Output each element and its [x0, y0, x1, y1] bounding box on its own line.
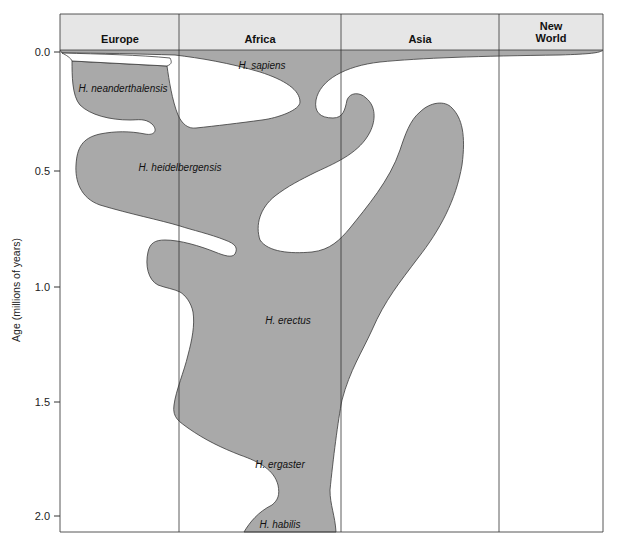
region-header-europe: Europe — [101, 33, 139, 45]
y-axis: 0.0 0.5 1.0 1.5 2.0 Age (millions of yea… — [10, 46, 60, 522]
label-h-habilis: H. habilis — [259, 519, 300, 530]
hominin-range-diagram: Europe Africa Asia New World 0.0 0.5 1.0… — [0, 0, 618, 548]
y-tick-0: 0.0 — [35, 46, 50, 58]
label-h-erectus: H. erectus — [265, 315, 311, 326]
y-tick-1: 1.0 — [35, 281, 50, 293]
species-range-shape — [60, 50, 603, 532]
region-header-africa: Africa — [244, 33, 276, 45]
y-tick-2: 2.0 — [35, 510, 50, 522]
y-tick-0-5: 0.5 — [35, 165, 50, 177]
label-h-sapiens: H. sapiens — [238, 60, 285, 71]
region-header-asia: Asia — [408, 33, 432, 45]
label-h-ergaster: H. ergaster — [255, 459, 305, 470]
y-axis-label: Age (millions of years) — [10, 238, 22, 342]
region-header-new-world-line1: New — [540, 20, 563, 32]
region-header-band — [60, 14, 603, 52]
region-header-new-world-line2: World — [536, 32, 567, 44]
label-h-heidelbergensis: H. heidelbergensis — [139, 162, 222, 173]
label-h-neanderthalensis: H. neanderthalensis — [79, 83, 168, 94]
y-tick-1-5: 1.5 — [35, 396, 50, 408]
